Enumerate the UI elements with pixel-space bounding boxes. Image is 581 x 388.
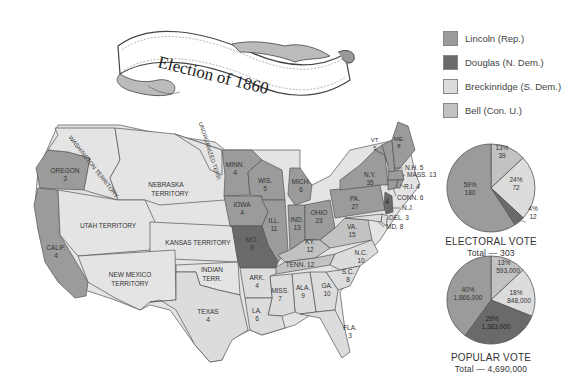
ev-douglas-val: 12: [529, 213, 537, 220]
legend-label-lincoln: Lincoln (Rep.): [465, 33, 524, 44]
label-ala: ALA.: [296, 284, 310, 291]
ev-bell-val: 39: [498, 152, 506, 159]
legend-label-douglas: Douglas (N. Dem.): [465, 57, 544, 68]
label-ny: N.Y.: [364, 171, 376, 178]
label-ky-votes: 12: [306, 246, 314, 253]
legend-item-bell: Bell (Con. U.): [443, 98, 561, 122]
ev-breck-val: 72: [512, 184, 520, 191]
pv-lincoln-pct: 40%: [461, 286, 474, 293]
label-la-votes: 6: [255, 315, 259, 322]
label-texas: TEXAS: [197, 308, 219, 315]
label-tenn: TENN. 12: [286, 261, 315, 268]
label-ill: ILL.: [269, 217, 280, 224]
label-wis-votes: 5: [263, 185, 267, 192]
label-iowa-votes: 4: [240, 209, 244, 216]
pv-breck-pct: 18%: [509, 289, 522, 296]
label-ohio: OHIO: [311, 209, 328, 216]
label-ga-votes: 10: [323, 290, 331, 297]
popular-caption: POPULAR VOTE Total — 4,690,000: [431, 352, 551, 374]
popular-title: POPULAR VOTE: [431, 352, 551, 363]
label-mich-votes: 6: [299, 186, 303, 193]
label-va-votes: 15: [348, 231, 356, 238]
label-mass: MASS. 13: [407, 171, 437, 178]
swatch-douglas: [443, 55, 458, 70]
ev-breck-pct: 24%: [509, 176, 522, 183]
label-oregon-votes: 3: [63, 175, 67, 182]
label-nebraska-1: NEBRASKA: [148, 181, 184, 188]
swatch-breckinridge: [443, 79, 458, 94]
pv-bell-val: 593,000: [496, 267, 520, 274]
label-nebraska-2: TERRITORY: [151, 190, 189, 197]
electoral-title: ELECTORAL VOTE: [431, 236, 551, 247]
label-miss-votes: 7: [278, 295, 282, 302]
electoral-caption: ELECTORAL VOTE Total — 303: [431, 236, 551, 258]
label-ga: GA.: [321, 282, 332, 289]
ev-douglas-pct: 4%: [528, 205, 538, 212]
pv-bell-pct: 13%: [497, 259, 510, 266]
label-ill-votes: 11: [271, 225, 278, 232]
label-mo-votes: 9: [250, 244, 254, 251]
legend-label-bell: Bell (Con. U.): [465, 105, 522, 116]
swatch-lincoln: [443, 31, 458, 46]
pv-lincoln-val: 1,866,000: [454, 294, 483, 301]
legend-item-lincoln: Lincoln (Rep.): [443, 26, 561, 50]
label-fla: FLA.: [343, 324, 357, 331]
label-pa-votes: 27: [351, 203, 359, 210]
label-sc: S.C.: [342, 268, 355, 275]
pv-douglas-pct: 29%: [485, 315, 498, 322]
ev-bell-pct: 13%: [495, 144, 508, 151]
state-massachusetts: [388, 170, 404, 180]
label-ind: IND.: [291, 216, 304, 223]
label-calif: CALIF.: [46, 244, 66, 251]
label-minn: MINN.: [226, 161, 245, 168]
label-nm-2: TERRITORY: [111, 280, 149, 287]
label-mo: MO.: [246, 236, 258, 243]
label-wis: WIS.: [258, 177, 272, 184]
label-calif-votes: 4: [54, 252, 58, 259]
label-ind-votes: 13: [293, 224, 301, 231]
label-utah: UTAH TERRITORY: [80, 222, 137, 229]
label-miss: MISS.: [271, 287, 289, 294]
label-ny-votes: 35: [366, 179, 374, 186]
ev-lincoln-val: 180: [465, 189, 476, 196]
label-md: MD. 8: [386, 223, 404, 230]
label-ri: R.I. 4: [404, 183, 420, 190]
label-fla-votes: 3: [348, 332, 352, 339]
ev-lincoln-pct: 59%: [463, 181, 476, 188]
label-indian-1: INDIAN: [201, 266, 223, 273]
pv-breck-val: 848,000: [507, 297, 531, 304]
label-minn-votes: 4: [233, 169, 237, 176]
label-ark-votes: 4: [255, 282, 259, 289]
label-kansas: KANSAS TERRITORY: [165, 239, 231, 246]
label-nj: N.J.: [402, 204, 414, 211]
label-texas-votes: 4: [206, 316, 210, 323]
swatch-bell: [443, 103, 458, 118]
label-me: ME.: [394, 136, 405, 142]
label-mich: MICH.: [292, 178, 311, 185]
label-nc-votes: 10: [357, 257, 365, 264]
popular-total: Total — 4,690,000: [431, 364, 551, 374]
label-conn: CONN. 6: [397, 194, 424, 201]
label-nh: N.H. 5: [405, 164, 424, 171]
legend-item-breckinridge: Breckinridge (S. Dem.): [443, 74, 561, 98]
label-nm-1: NEW MEXICO: [109, 271, 152, 278]
label-iowa: IOWA: [233, 201, 251, 208]
label-nc: N.C.: [355, 249, 368, 256]
electoral-total: Total — 303: [431, 248, 551, 258]
label-ky: KY.: [305, 238, 315, 245]
label-ohio-votes: 23: [315, 217, 323, 224]
label-pa: PA.: [350, 195, 360, 202]
election-1860-map-figure: Election of 1860: [0, 0, 581, 388]
label-sc-votes: 8: [346, 276, 350, 283]
label-vt: VT.: [371, 137, 380, 143]
legend: Lincoln (Rep.) Douglas (N. Dem.) Breckin…: [443, 26, 561, 122]
label-ala-votes: 9: [301, 292, 305, 299]
pv-douglas-val: 1,383,000: [482, 323, 511, 330]
legend-item-douglas: Douglas (N. Dem.): [443, 50, 561, 74]
title-banner: Election of 1860: [117, 31, 354, 98]
label-indian-2: TERR.: [202, 275, 222, 282]
label-oregon: OREGON: [51, 167, 80, 174]
label-ark: ARK.: [249, 274, 264, 281]
legend-label-breckinridge: Breckinridge (S. Dem.): [465, 81, 561, 92]
electoral-vote-pie: [447, 144, 535, 232]
